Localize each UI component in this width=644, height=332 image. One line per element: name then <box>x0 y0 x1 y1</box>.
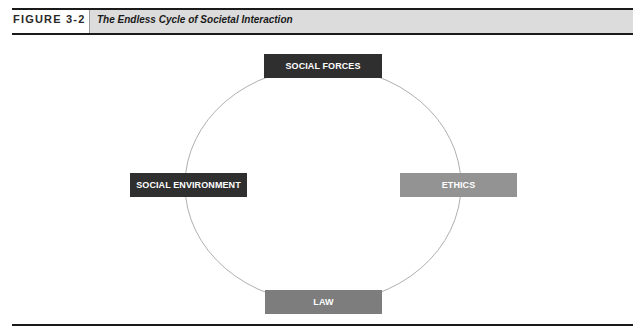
node-label: SOCIAL ENVIRONMENT <box>136 180 241 190</box>
node-social-environment: SOCIAL ENVIRONMENT <box>130 173 247 197</box>
node-label: LAW <box>313 297 333 307</box>
node-label: ETHICS <box>442 180 476 190</box>
node-label: SOCIAL FORCES <box>285 61 360 71</box>
figure-bottom-rule <box>12 324 633 326</box>
node-law: LAW <box>265 290 382 314</box>
cycle-diagram <box>0 0 644 332</box>
node-social-forces: SOCIAL FORCES <box>264 54 382 78</box>
node-ethics: ETHICS <box>400 173 517 197</box>
